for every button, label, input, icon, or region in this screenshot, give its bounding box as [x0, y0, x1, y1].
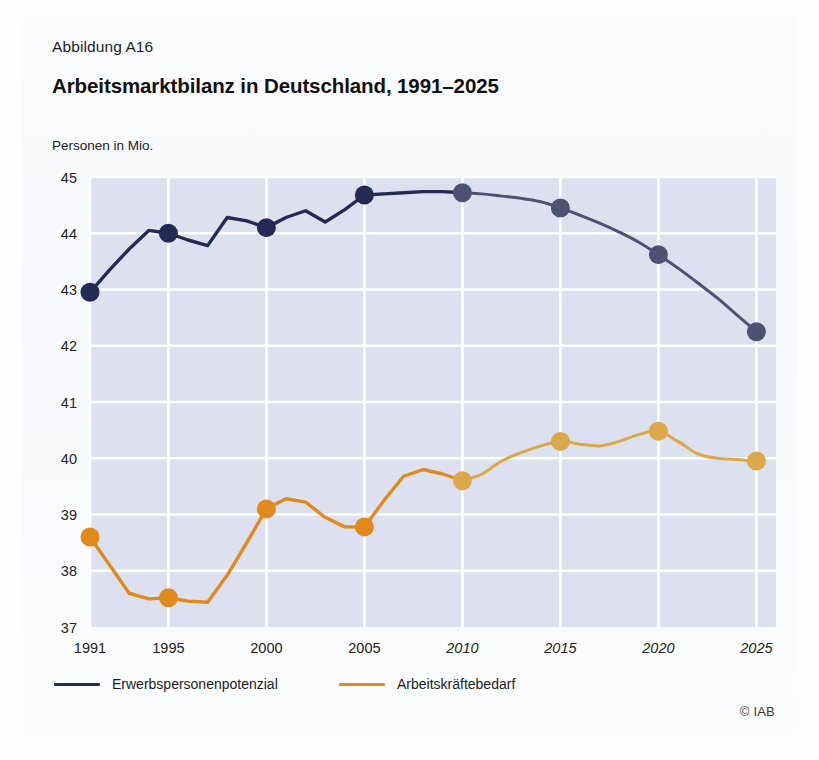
legend-swatch-navy	[54, 683, 100, 686]
legend-label-arbeitskraeftebedarf: Arbeitskräftebedarf	[397, 676, 515, 692]
data-point-marker	[551, 198, 570, 217]
chart-plot-area: 3738394041424344451991199520002005201020…	[0, 0, 819, 684]
x-axis-tick-label: 1991	[74, 640, 106, 656]
data-point-marker	[649, 422, 668, 441]
x-axis-tick-label: 1995	[152, 640, 184, 656]
y-axis-tick-label: 45	[61, 170, 77, 186]
x-axis-tick-label: 2000	[250, 640, 282, 656]
copyright-credit: © IAB	[740, 704, 775, 719]
data-point-marker	[355, 186, 374, 205]
legend-label-erwerbspersonenpotenzial: Erwerbspersonenpotenzial	[112, 676, 278, 692]
legend-item-arbeitskraeftebedarf[interactable]: Arbeitskräftebedarf	[339, 676, 515, 692]
data-point-marker	[159, 224, 178, 243]
y-axis-tick-label: 37	[61, 620, 77, 636]
data-point-marker	[453, 183, 472, 202]
data-point-marker	[257, 499, 276, 518]
data-point-marker	[81, 528, 100, 547]
figure-container: Abbildung A16 Arbeitsmarktbilanz in Deut…	[0, 0, 819, 760]
y-axis-tick-label: 39	[61, 507, 77, 523]
y-axis-tick-label: 41	[61, 395, 77, 411]
data-point-marker	[747, 322, 766, 341]
data-point-marker	[649, 245, 668, 264]
data-point-marker	[159, 588, 178, 607]
data-point-marker	[747, 452, 766, 471]
y-axis-tick-label: 38	[61, 563, 77, 579]
legend-swatch-orange	[339, 683, 385, 686]
chart-legend: Erwerbspersonenpotenzial Arbeitskräftebe…	[54, 676, 515, 692]
y-axis-tick-label: 40	[61, 451, 77, 467]
data-point-marker	[551, 432, 570, 451]
x-axis-tick-label: 2020	[641, 640, 674, 656]
x-axis-tick-label: 2010	[445, 640, 478, 656]
data-point-marker	[453, 471, 472, 490]
line-chart: 3738394041424344451991199520002005201020…	[0, 0, 819, 680]
figure-content: Abbildung A16 Arbeitsmarktbilanz in Deut…	[0, 0, 819, 760]
y-axis-tick-label: 44	[61, 226, 77, 242]
y-axis-tick-label: 42	[61, 338, 77, 354]
x-axis-tick-label: 2005	[348, 640, 380, 656]
data-point-marker	[81, 283, 100, 302]
data-point-marker	[257, 218, 276, 237]
x-axis-tick-label: 2015	[543, 640, 577, 656]
x-axis-tick-label: 2025	[739, 640, 773, 656]
y-axis-tick-label: 43	[61, 282, 77, 298]
legend-item-erwerbspersonenpotenzial[interactable]: Erwerbspersonenpotenzial	[54, 676, 339, 692]
data-point-marker	[355, 517, 374, 536]
